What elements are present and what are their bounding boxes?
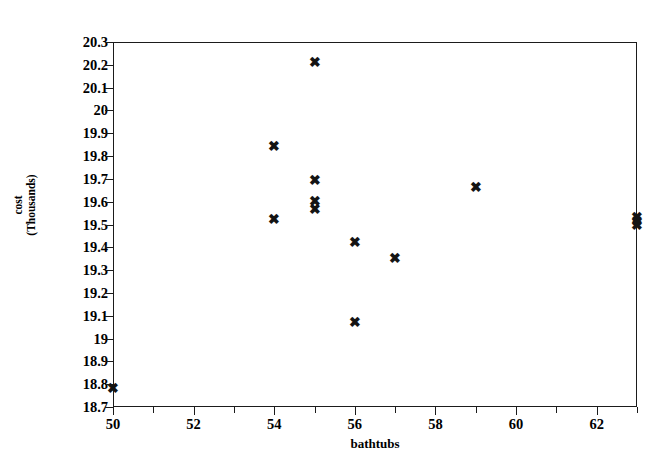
x-tick-label: 62 xyxy=(567,417,627,432)
x-tick-label: 52 xyxy=(164,417,224,432)
scatter-chart: cost (Thousands) 18.718.818.91919.119.21… xyxy=(0,0,669,476)
x-axis-tick-labels: 50525456586062 xyxy=(0,0,669,476)
x-tick-label: 50 xyxy=(83,417,143,432)
x-tick-label: 60 xyxy=(486,417,546,432)
x-tick-label: 58 xyxy=(405,417,465,432)
x-tick-label: 56 xyxy=(325,417,385,432)
x-axis-title: bathtubs xyxy=(113,436,637,452)
x-tick-label: 54 xyxy=(244,417,304,432)
